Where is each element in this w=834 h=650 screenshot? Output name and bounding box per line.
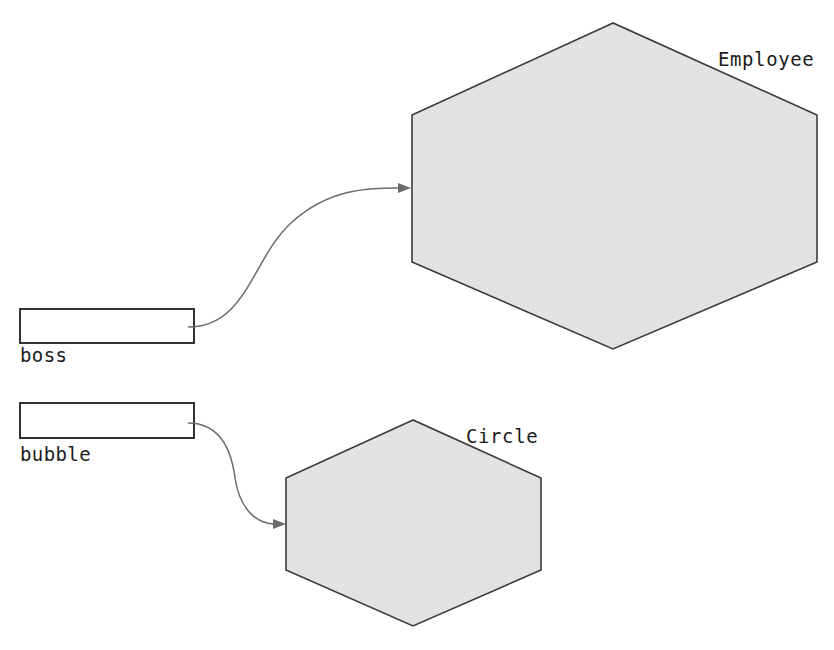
diagram-canvas: Employee Circle boss bubble	[0, 0, 834, 650]
node-employee[interactable]	[412, 23, 817, 349]
node-label-employee: Employee	[718, 48, 814, 70]
variable-box-bubble[interactable]	[20, 403, 194, 438]
variable-box-boss[interactable]	[20, 309, 194, 343]
arrowhead-boss-to-employee	[398, 183, 411, 193]
variable-label-boss: boss	[20, 344, 67, 366]
arrowhead-bubble-to-circle	[273, 519, 286, 529]
node-label-circle: Circle	[466, 425, 538, 447]
variable-label-bubble: bubble	[20, 443, 91, 465]
object-reference-diagram: Employee Circle boss bubble	[0, 0, 834, 650]
edge-boss-to-employee	[188, 188, 400, 327]
node-circle[interactable]	[286, 420, 541, 626]
edge-bubble-to-circle	[188, 423, 275, 524]
